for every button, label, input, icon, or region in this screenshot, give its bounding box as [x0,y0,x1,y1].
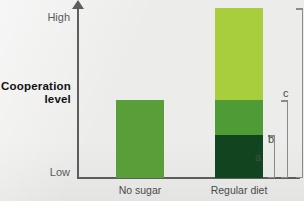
bar-no-sugar [116,100,164,178]
bar-regular-segment-top [215,8,263,100]
bar-no-sugar-segment [116,100,164,178]
y-axis-title-line2: level [0,93,71,106]
y-axis-line [77,3,79,179]
cooperation-level-bar-chart: High Low Cooperation level No sugar Regu… [0,0,304,201]
bracket-a-label: a [255,151,261,163]
x-axis-label-regular-diet: Regular diet [199,184,279,196]
y-axis-tick-low: Low [7,166,70,178]
bracket-b-spine [287,100,289,178]
x-axis-label-no-sugar: No sugar [100,184,180,196]
bracket-b: b [279,100,288,178]
bracket-b-bottom-tick [281,177,288,179]
bracket-c-bottom-tick [296,177,303,179]
bracket-c-label: c [283,87,289,99]
bracket-c: c [294,8,303,178]
bar-regular-segment-middle [215,100,263,135]
bracket-b-label: b [268,133,274,145]
bracket-c-spine [302,8,304,178]
y-axis-title-line1: Cooperation [0,80,71,93]
y-axis-tick-high: High [7,11,70,23]
y-axis-title: Cooperation level [0,80,71,106]
bracket-a-bottom-tick [268,177,275,179]
